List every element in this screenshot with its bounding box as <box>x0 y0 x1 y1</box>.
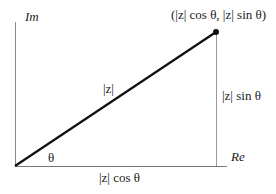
hypotenuse-label: |z| <box>103 82 114 95</box>
point-coordinates-label: (|z| cos θ, |z| sin θ) <box>171 8 266 21</box>
horizontal-leg-label: |z| cos θ <box>99 171 140 184</box>
angle-theta-label: θ <box>48 151 54 164</box>
real-axis-label: Re <box>231 150 245 163</box>
vertical-leg-label: |z| sin θ <box>222 89 261 102</box>
imaginary-axis-label: Im <box>25 10 39 23</box>
complex-plane-diagram: Im Re (|z| cos θ, |z| sin θ) |z| |z| sin… <box>0 0 276 194</box>
point-z <box>213 29 219 35</box>
vector-z <box>15 32 216 166</box>
